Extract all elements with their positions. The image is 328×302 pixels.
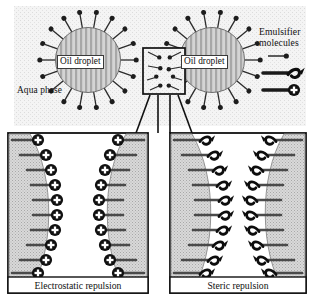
steric-repulsion-panel bbox=[170, 133, 306, 293]
electrostatic-repulsion-panel bbox=[8, 133, 148, 293]
aqua-phase-label: Aqua phase bbox=[17, 86, 62, 95]
legend-title-line-1: Emulsifier bbox=[259, 27, 301, 37]
steric-repulsion-caption: Steric repulsion bbox=[170, 281, 306, 291]
electrostatic-repulsion-caption: Electrostatic repulsion bbox=[8, 281, 148, 291]
legend-title-line-2: molecules bbox=[259, 38, 299, 48]
oil-droplet-label-left: Oil droplet bbox=[57, 55, 104, 69]
magnified-region-box[interactable] bbox=[143, 48, 185, 94]
oil-droplet-label-right: Oil droplet bbox=[181, 55, 228, 69]
emulsion-stabilization-figure: Aqua phase Oil droplet Oil droplet Emuls… bbox=[0, 0, 328, 302]
